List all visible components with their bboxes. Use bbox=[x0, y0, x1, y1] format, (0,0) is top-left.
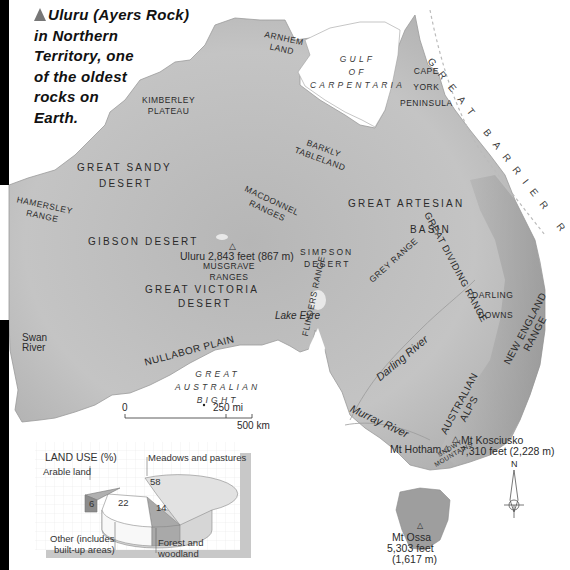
land-use-label-forest: woodland bbox=[158, 548, 199, 559]
lake-amadeus bbox=[216, 234, 228, 240]
label-uluru-height: Uluru 2,843 feet (867 m) bbox=[180, 250, 294, 262]
scale-miles-label: 250 mi bbox=[213, 402, 243, 413]
compass-rose bbox=[504, 470, 524, 518]
caption-line: in Northern bbox=[34, 26, 189, 47]
land-use-label-other: Other (includes bbox=[50, 533, 114, 544]
land-use-value-forest: 14 bbox=[156, 502, 167, 513]
label-musgrave-ranges: MUSGRAVE RANGES bbox=[203, 261, 255, 283]
caption-line: Territory, one bbox=[34, 46, 189, 67]
mt-kosciusko-marker-icon: △ bbox=[452, 434, 459, 444]
label-mt-kosciusko-height: 7,310 feet (2,228 m) bbox=[460, 445, 555, 457]
label-gulf-of-carpentaria: GULF OF CARPENTARIA bbox=[310, 53, 405, 92]
land-use-label-other: built-up areas) bbox=[54, 544, 115, 555]
label-mt-ossa-meters: (1,617 m) bbox=[392, 553, 437, 565]
triangle-peak-icon bbox=[34, 8, 46, 21]
left-border-strip bbox=[0, 320, 9, 570]
label-kimberley-plateau: KIMBERLEY PLATEAU bbox=[142, 95, 195, 117]
land-use-label-forest: Forest and bbox=[158, 537, 203, 548]
label-great-victoria-desert: GREAT VICTORIA bbox=[145, 284, 259, 295]
land-use-label-arable: Arable land bbox=[43, 466, 91, 477]
label-gibson-desert: GIBSON DESERT bbox=[88, 236, 199, 247]
scale-km-label: 500 km bbox=[237, 420, 270, 431]
land-use-value-arable: 6 bbox=[89, 498, 94, 509]
land-use-value-meadows: 58 bbox=[150, 476, 161, 487]
label-swan-river: Swan River bbox=[22, 333, 47, 353]
mt-hotham-marker-icon: △ bbox=[443, 443, 450, 453]
land-use-title: LAND USE (%) bbox=[45, 452, 117, 463]
label-darling-downs: DARLING bbox=[472, 290, 513, 301]
mt-ossa-marker-icon: △ bbox=[417, 521, 423, 530]
label-great-victoria-desert: DESERT bbox=[178, 298, 232, 309]
label-simpson-desert: DESERT bbox=[304, 259, 350, 270]
scale-zero-label: 0 bbox=[122, 402, 128, 413]
land-use-value-other: 22 bbox=[118, 497, 129, 508]
label-darling-downs: DOWNS bbox=[478, 310, 513, 321]
caption-line: Uluru (Ayers Rock) bbox=[48, 6, 189, 23]
caption-line: of the oldest bbox=[34, 67, 189, 88]
compass-north-label: N bbox=[511, 459, 518, 469]
label-great-artesian: GREAT ARTESIAN bbox=[348, 198, 464, 209]
label-great-sandy-desert: DESERT bbox=[99, 178, 153, 189]
label-mt-hotham: Mt Hotham bbox=[390, 443, 441, 455]
left-border-strip bbox=[0, 0, 9, 185]
label-great-sandy-desert: GREAT SANDY bbox=[77, 162, 172, 173]
land-use-label-meadows: Meadows and pastures bbox=[148, 452, 246, 463]
